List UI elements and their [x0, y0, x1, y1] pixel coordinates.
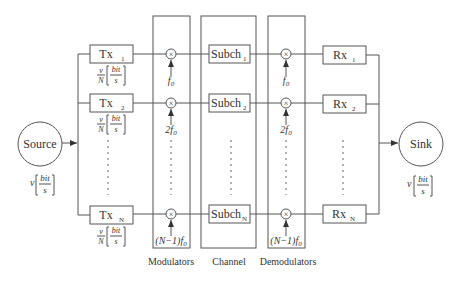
svg-text:2: 2: [121, 104, 125, 112]
svg-text:Rx: Rx: [333, 48, 347, 62]
svg-text:N: N: [97, 237, 104, 246]
rx-2: Rx 2: [323, 95, 366, 113]
svg-text:Subch: Subch: [211, 47, 241, 61]
tx-n: Tx N: [90, 206, 133, 224]
svg-text:Tx: Tx: [99, 208, 112, 222]
svg-text:N: N: [97, 125, 104, 134]
subchannel-n: Subch N: [209, 205, 250, 223]
source-label: Source: [23, 137, 56, 151]
tx-1: Tx 1: [90, 45, 133, 63]
svg-text:bit: bit: [418, 174, 428, 184]
tx-2-rate: v N bit s: [97, 114, 125, 134]
svg-text:×: ×: [284, 99, 289, 108]
svg-text:Subch: Subch: [211, 96, 241, 110]
svg-text:1: 1: [121, 55, 125, 63]
demodulators-label: Demodulators: [260, 256, 317, 267]
svg-text:×: ×: [169, 210, 174, 219]
tx-n-rate: v N bit s: [97, 226, 125, 246]
svg-text:N: N: [242, 215, 247, 223]
subchannel-1: Subch 1: [209, 45, 250, 63]
svg-text:v: v: [99, 227, 103, 236]
sink-node: Sink: [399, 122, 443, 166]
sink-rate: v bit s: [407, 174, 432, 196]
tx-2: Tx 2: [90, 94, 133, 112]
source-rate: v bit s: [30, 173, 54, 195]
svg-text:N: N: [97, 76, 104, 85]
sink-label: Sink: [410, 137, 432, 151]
svg-text:2: 2: [352, 105, 356, 113]
modulators-label: Modulators: [148, 256, 194, 267]
svg-text:1: 1: [243, 55, 247, 63]
svg-text:bit: bit: [112, 65, 121, 74]
svg-text:v: v: [99, 66, 103, 75]
svg-text:×: ×: [169, 50, 174, 59]
svg-text:s: s: [114, 125, 117, 134]
svg-text:s: s: [421, 186, 425, 196]
source-node: Source: [18, 122, 62, 166]
svg-text:N: N: [119, 216, 124, 224]
svg-text:bit: bit: [40, 173, 50, 183]
svg-text:v: v: [30, 177, 35, 188]
svg-text:×: ×: [284, 50, 289, 59]
svg-text:×: ×: [284, 210, 289, 219]
svg-text:×: ×: [169, 99, 174, 108]
rx-1: Rx 1: [323, 46, 366, 64]
svg-text:v: v: [407, 178, 412, 189]
svg-text:s: s: [43, 185, 47, 195]
svg-text:bit: bit: [112, 114, 121, 123]
svg-text:2: 2: [243, 104, 247, 112]
svg-text:Tx: Tx: [99, 96, 112, 110]
subchannel-2: Subch 2: [209, 94, 250, 112]
svg-text:Rx: Rx: [332, 207, 346, 221]
svg-text:Rx: Rx: [333, 97, 347, 111]
channel-label: Channel: [212, 256, 246, 267]
svg-text:1: 1: [352, 56, 356, 64]
svg-text:bit: bit: [112, 226, 121, 235]
svg-text:v: v: [99, 115, 103, 124]
bracket-right: [52, 175, 54, 195]
svg-text:s: s: [114, 237, 117, 246]
svg-text:N: N: [350, 215, 355, 223]
ofdm-block-diagram: Source v bit s Tx 1 Tx 2 Tx N v N bit s: [0, 0, 457, 281]
svg-text:Tx: Tx: [99, 47, 112, 61]
tx-1-rate: v N bit s: [97, 65, 125, 85]
bracket-left: [36, 175, 38, 195]
svg-text:Subch: Subch: [211, 207, 241, 221]
rx-n: Rx N: [323, 205, 366, 223]
svg-text:s: s: [114, 76, 117, 85]
